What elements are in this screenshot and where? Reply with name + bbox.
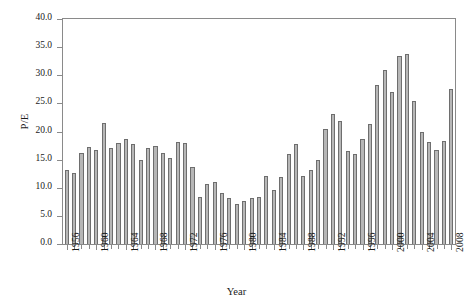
x-axis-tick-mark	[148, 245, 149, 249]
y-axis-tick-mark	[57, 216, 62, 217]
x-axis-tick-mark	[178, 245, 179, 249]
x-axis-tick-mark	[185, 245, 186, 250]
x-axis-tick-mark	[289, 245, 290, 249]
x-axis-tick-mark	[318, 245, 319, 249]
x-axis-tick-label: 1980	[248, 232, 258, 252]
bar	[397, 56, 401, 244]
bar	[383, 70, 387, 244]
bar	[79, 153, 83, 244]
x-axis-tick-mark	[266, 245, 267, 249]
y-axis-tick: 10.0	[0, 188, 62, 189]
bar	[353, 154, 357, 244]
pe-ratio-bar-chart: P/E 0.05.010.015.020.025.030.035.040.0 1…	[0, 0, 473, 302]
x-axis-tick-mark	[96, 245, 97, 250]
x-axis-tick-mark	[392, 245, 393, 250]
y-axis-tick-label: 25.0	[35, 96, 52, 106]
bar	[331, 114, 335, 245]
x-axis-tick-label: 1988	[307, 232, 317, 252]
y-axis-label: P/E	[19, 92, 30, 152]
x-axis-tick-label: 1976	[219, 232, 229, 252]
bar-series	[63, 19, 455, 244]
bar	[442, 141, 446, 244]
x-axis-tick-label: 1960	[100, 232, 110, 252]
x-axis-tick-mark	[355, 245, 356, 249]
x-axis-tick-mark	[200, 245, 201, 249]
x-axis-tick-mark	[363, 245, 364, 250]
y-axis-tick-label: 35.0	[35, 40, 52, 50]
y-axis-tick-mark	[57, 75, 62, 76]
x-axis-tick-mark	[422, 245, 423, 250]
x-axis-label: Year	[0, 286, 473, 297]
x-axis-tick-mark	[118, 245, 119, 249]
y-axis-tick: 5.0	[0, 216, 62, 217]
x-axis-tick-label: 2008	[455, 232, 465, 252]
x-axis-tick-mark	[67, 245, 68, 250]
bar	[427, 142, 431, 244]
y-axis-tick-label: 20.0	[35, 125, 52, 135]
y-axis-tick: 20.0	[0, 132, 62, 133]
x-axis-tick-label: 1956	[71, 232, 81, 252]
x-axis-tick-mark	[259, 245, 260, 249]
bar	[368, 124, 372, 244]
bar	[146, 148, 150, 244]
x-axis-tick-mark	[81, 245, 82, 249]
y-axis-tick-mark	[57, 103, 62, 104]
bar	[412, 101, 416, 244]
x-axis-tick-mark	[141, 245, 142, 249]
x-axis-tick-label: 1996	[367, 232, 377, 252]
x-axis-tick-label: 1972	[189, 232, 199, 252]
bar	[102, 123, 106, 244]
bar	[301, 176, 305, 244]
bar	[213, 182, 217, 244]
bar	[87, 147, 91, 244]
bar	[420, 132, 424, 244]
bar	[294, 144, 298, 244]
y-axis-tick: 15.0	[0, 160, 62, 161]
x-axis-tick-mark	[155, 245, 156, 250]
x-axis-tick-mark	[414, 245, 415, 249]
x-axis-tick-mark	[296, 245, 297, 249]
x-axis-tick-mark	[215, 245, 216, 250]
y-axis-tick-label: 40.0	[35, 12, 52, 22]
y-axis-tick-mark	[57, 188, 62, 189]
y-axis-tick: 25.0	[0, 103, 62, 104]
x-axis-tick-mark	[89, 245, 90, 249]
x-axis-tick-mark	[274, 245, 275, 250]
x-axis-tick-label: 1984	[278, 232, 288, 252]
bar	[94, 150, 98, 245]
bar	[161, 153, 165, 244]
y-axis-tick: 0.0	[0, 244, 62, 245]
y-axis-tick: 30.0	[0, 75, 62, 76]
x-axis-tick-label: 1964	[130, 232, 140, 252]
bar	[153, 146, 157, 244]
bar	[109, 148, 113, 244]
x-axis-tick-mark	[244, 245, 245, 250]
x-axis-tick-label: 1968	[159, 232, 169, 252]
x-axis-tick-label: 2000	[396, 232, 406, 252]
bar	[235, 204, 239, 245]
x-axis-tick-mark	[207, 245, 208, 249]
x-axis-tick-label: 2004	[426, 232, 436, 252]
bar	[264, 176, 268, 244]
bar	[176, 142, 180, 244]
y-axis-tick-mark	[57, 244, 62, 245]
x-axis-tick-mark	[111, 245, 112, 249]
bar	[323, 129, 327, 244]
bar	[346, 151, 350, 244]
x-axis-tick-mark	[303, 245, 304, 250]
y-axis-tick-mark	[57, 47, 62, 48]
x-axis-tick-mark	[385, 245, 386, 249]
bar	[65, 170, 69, 244]
bar	[124, 139, 128, 244]
x-axis-tick-mark	[348, 245, 349, 249]
bar	[390, 92, 394, 244]
x-axis-tick-mark	[326, 245, 327, 249]
bar	[360, 139, 364, 244]
bar	[287, 154, 291, 244]
y-axis-tick-label: 15.0	[35, 153, 52, 163]
bar	[116, 143, 120, 244]
y-axis-tick-mark	[57, 19, 62, 20]
x-axis-tick-mark	[170, 245, 171, 249]
x-axis-tick-label: 1992	[337, 232, 347, 252]
y-axis-tick-mark	[57, 132, 62, 133]
